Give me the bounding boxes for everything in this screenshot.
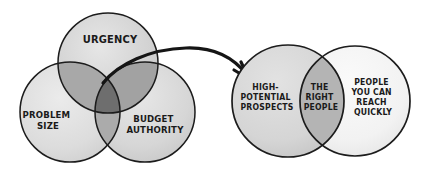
qualification-criteria-venn: URGENCY PROBLEM SIZE BUDGET AUTHORITY (20, 13, 195, 162)
label-urgency: URGENCY (83, 33, 138, 46)
label-budget-authority: BUDGET AUTHORITY (126, 113, 184, 135)
right-people-venn: HIGH- POTENTIAL PROSPECTS THE RIGHT PEOP… (232, 45, 410, 157)
diagram-canvas: URGENCY PROBLEM SIZE BUDGET AUTHORITY (0, 0, 440, 184)
venn-diagram-illustration: URGENCY PROBLEM SIZE BUDGET AUTHORITY (0, 0, 440, 184)
label-reach-quickly: PEOPLE YOU CAN REACH QUICKLY (350, 77, 394, 117)
